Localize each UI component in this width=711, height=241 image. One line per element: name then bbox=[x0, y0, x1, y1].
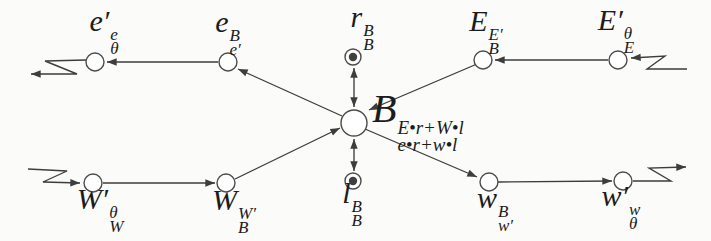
label-base: l bbox=[342, 176, 350, 209]
label-base: W′ bbox=[77, 182, 109, 215]
edge-W-to-B bbox=[235, 128, 340, 179]
output-zigzag-bottom-right bbox=[633, 167, 686, 181]
label-E: EE′B bbox=[469, 6, 502, 56]
label-B: BE•r+W•le•r+w•l bbox=[372, 89, 464, 153]
label-sub: E bbox=[624, 41, 634, 55]
label-E-prime: E′θE bbox=[598, 5, 634, 55]
label-l: lBB bbox=[342, 178, 362, 228]
label-sub: B bbox=[363, 38, 373, 52]
label-scripts: θW bbox=[109, 206, 123, 234]
node-r-dot bbox=[349, 53, 357, 61]
label-scripts: BB bbox=[351, 200, 361, 228]
label-W: WW′B bbox=[212, 185, 256, 235]
label-w-prime: w′wθ bbox=[602, 181, 641, 231]
edge-w-to-w-prime bbox=[498, 181, 612, 182]
label-scripts: θE bbox=[624, 27, 634, 55]
label-e: eBe′ bbox=[215, 7, 241, 57]
label-scripts: Be′ bbox=[230, 29, 241, 57]
label-sub: w′ bbox=[498, 219, 513, 233]
node-B bbox=[341, 110, 367, 136]
label-scripts: W′B bbox=[238, 207, 256, 235]
label-base: r bbox=[350, 0, 362, 33]
input-zigzag-top-right bbox=[631, 56, 687, 69]
label-scripts: E•r+W•le•r+w•l bbox=[397, 119, 463, 153]
label-base: E bbox=[469, 4, 487, 37]
label-scripts: Bw′ bbox=[498, 205, 513, 233]
label-sub: θ bbox=[629, 217, 637, 231]
label-r: rBB bbox=[350, 2, 373, 52]
label-sub: e′ bbox=[230, 43, 241, 57]
label-W-prime: W′θW bbox=[77, 184, 124, 234]
label-sub: B bbox=[238, 221, 248, 235]
label-sub: W bbox=[109, 220, 123, 234]
label-sub: e•r+w•l bbox=[397, 136, 457, 153]
label-base: e bbox=[215, 5, 228, 38]
label-base: w bbox=[477, 181, 497, 214]
label-base: e′ bbox=[89, 4, 109, 37]
edge-B-to-e bbox=[238, 69, 342, 116]
label-base: W bbox=[212, 183, 237, 216]
figure-network-diagram: e′eθ eBe′ rBB EE′B E′θE BE•r+W•le•r+w•l … bbox=[0, 0, 711, 241]
label-base: B bbox=[372, 86, 396, 131]
input-zigzag-bottom-left bbox=[28, 169, 80, 183]
output-zigzag-top-left bbox=[31, 60, 86, 74]
label-e-prime: e′eθ bbox=[89, 6, 118, 56]
label-scripts: wθ bbox=[629, 203, 640, 231]
label-sub: B bbox=[351, 214, 361, 228]
label-base: w′ bbox=[602, 179, 629, 212]
label-sub: θ bbox=[110, 42, 118, 56]
label-scripts: eθ bbox=[110, 28, 118, 56]
label-scripts: BB bbox=[363, 24, 373, 52]
label-sub: B bbox=[489, 42, 499, 56]
label-scripts: E′B bbox=[489, 28, 503, 56]
label-base: E′ bbox=[598, 3, 623, 36]
label-w: wBw′ bbox=[477, 183, 513, 233]
